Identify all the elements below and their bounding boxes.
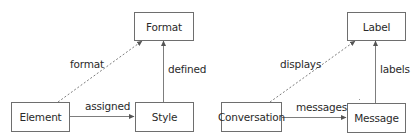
edge-label-defined: defined	[168, 63, 206, 75]
node-label: Label	[347, 12, 406, 41]
node-format: Format	[134, 12, 194, 41]
node-element-label: Element	[19, 111, 61, 123]
node-label-label: Label	[363, 21, 390, 33]
node-style: Style	[135, 102, 194, 132]
node-conversation-label: Conversation	[218, 111, 285, 123]
node-style-label: Style	[152, 111, 177, 123]
edge-label-messages: messages	[296, 101, 347, 113]
node-message: Message	[347, 103, 406, 133]
node-element: Element	[11, 102, 70, 132]
edge-label-labels: labels	[380, 63, 410, 75]
edge-conversation-to-label	[270, 41, 355, 102]
node-conversation: Conversation	[221, 102, 282, 132]
edge-label-displays: displays	[280, 58, 321, 70]
edge-label-format: format	[70, 58, 104, 70]
node-format-label: Format	[146, 21, 182, 33]
diagram-canvas: Format Element Style format assigned def…	[0, 0, 416, 140]
edge-element-to-format	[58, 41, 142, 102]
stray-dot	[359, 99, 360, 100]
node-message-label: Message	[354, 112, 399, 124]
edge-label-assigned: assigned	[85, 100, 130, 112]
